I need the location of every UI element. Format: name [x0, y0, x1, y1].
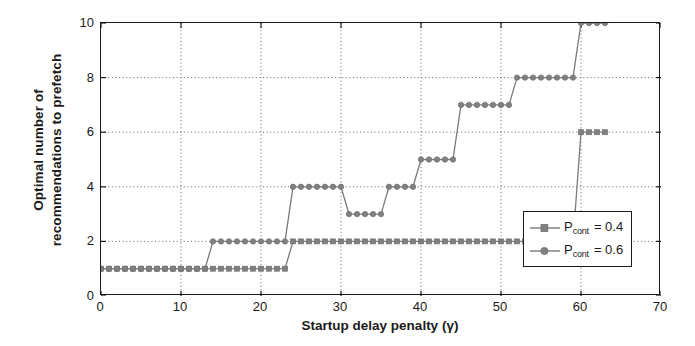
x-tick-label: 50 [493, 299, 507, 314]
y-axis-label-line1: Optimal number of [30, 54, 48, 246]
legend-label-0-base: P [564, 219, 573, 234]
y-tick-label: 4 [68, 178, 94, 193]
x-tick-label: 10 [173, 299, 187, 314]
y-tick-label: 2 [68, 233, 94, 248]
legend-label-0-sub: cont [573, 225, 589, 235]
y-tick-label: 6 [68, 124, 94, 139]
chart-legend: Pcont= 0.4 Pcont= 0.6 [523, 211, 632, 267]
x-tick-label: 60 [573, 299, 587, 314]
legend-marker-square-icon [528, 221, 562, 235]
x-tick-label: 0 [96, 299, 103, 314]
x-tick-label: 70 [653, 299, 667, 314]
x-tick-label: 40 [413, 299, 427, 314]
y-axis-tick-labels: 0246810 [62, 22, 94, 295]
y-tick-label: 8 [68, 69, 94, 84]
x-axis-tick-labels: 010203040506070 [100, 299, 660, 319]
x-tick-label: 30 [333, 299, 347, 314]
x-tick-label: 20 [253, 299, 267, 314]
legend-item-0: Pcont= 0.4 [528, 216, 623, 239]
legend-label-0: Pcont= 0.4 [564, 220, 623, 236]
legend-label-1-sub: cont [573, 248, 589, 258]
legend-label-1-value: = 0.6 [594, 242, 623, 257]
legend-marker-circle-icon [528, 244, 562, 258]
legend-label-1-base: P [564, 242, 573, 257]
chart-figure: Optimal number of recommendations to pre… [0, 0, 695, 346]
legend-label-0-value: = 0.4 [594, 219, 623, 234]
x-axis-label: Startup delay penalty (γ) [100, 318, 660, 333]
y-tick-label: 10 [68, 15, 94, 30]
y-tick-label: 0 [68, 288, 94, 303]
legend-item-1: Pcont= 0.6 [528, 239, 623, 262]
legend-label-1: Pcont= 0.6 [564, 243, 623, 259]
